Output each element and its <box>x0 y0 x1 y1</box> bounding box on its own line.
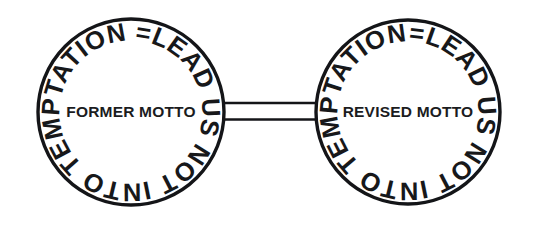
connector-bar-fill <box>218 102 320 120</box>
figure-root: Two linked circular seals comparing a fo… <box>0 0 538 225</box>
seal-former-center-label: FORMER MOTTO <box>66 103 196 120</box>
seal-former[interactable]: =LEAD US NOT INTO TEMPTATION FORMER MOTT… <box>36 17 226 206</box>
seal-revised[interactable]: =LEAD US NOT INTO TEMPTATION REVISED MOT… <box>314 18 502 206</box>
two-seals-diagram: Two linked circular seals comparing a fo… <box>0 0 538 225</box>
seal-revised-center-label: REVISED MOTTO <box>343 103 474 120</box>
connector-bar <box>218 102 320 120</box>
